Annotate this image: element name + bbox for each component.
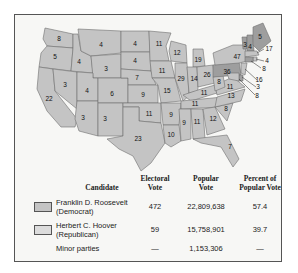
svg-text:3: 3: [256, 83, 260, 90]
svg-text:4: 4: [133, 40, 137, 47]
svg-text:3: 3: [104, 65, 108, 72]
state-az: [75, 101, 98, 136]
svg-text:11: 11: [201, 89, 208, 96]
svg-text:12: 12: [209, 115, 217, 122]
svg-text:4: 4: [85, 87, 89, 94]
candidate-name: Franklin D. Roosevelt (Democrat): [56, 198, 128, 216]
svg-text:11: 11: [146, 110, 153, 117]
svg-text:9: 9: [169, 111, 173, 118]
svg-text:11: 11: [194, 118, 201, 125]
state-ma: [245, 51, 259, 57]
svg-text:4: 4: [77, 58, 81, 65]
svg-text:13: 13: [227, 92, 235, 99]
svg-text:15: 15: [163, 87, 171, 94]
svg-text:8: 8: [224, 105, 228, 112]
democrat-swatch: [34, 202, 52, 212]
svg-text:14: 14: [190, 75, 198, 82]
state-ny: [213, 45, 247, 65]
state-ct: [245, 57, 253, 62]
electoral-vote: 59: [130, 225, 180, 234]
svg-text:22: 22: [45, 95, 53, 102]
candidate-name: Herbert C. Hoover (Republican): [56, 221, 117, 239]
percent-popular-vote: —: [235, 244, 285, 253]
svg-text:17: 17: [265, 45, 273, 52]
svg-text:4: 4: [248, 43, 252, 50]
state-de: [239, 75, 243, 81]
header-popular-vote: Popular Vote: [176, 174, 236, 192]
svg-text:8: 8: [57, 35, 61, 42]
svg-text:3: 3: [243, 41, 247, 48]
svg-text:8: 8: [217, 78, 221, 85]
header-percent-popular-vote: Percent of Popular Vote: [230, 174, 290, 192]
svg-text:29: 29: [177, 75, 185, 82]
svg-text:4: 4: [133, 57, 137, 64]
svg-text:4: 4: [99, 41, 103, 48]
state-nm: [98, 103, 123, 136]
us-electoral-map: 8 5 22 4 3 4 3 4 3 6 3 4 4 7 9 11 23 11 …: [15, 15, 283, 180]
republican-swatch: [34, 225, 52, 235]
svg-text:8: 8: [262, 65, 266, 72]
svg-text:3: 3: [103, 115, 107, 122]
svg-text:11: 11: [227, 83, 234, 90]
svg-text:9: 9: [141, 91, 145, 98]
svg-text:4: 4: [265, 57, 269, 64]
svg-text:7: 7: [228, 143, 232, 150]
header-electoral-vote: Electoral Vote: [130, 174, 180, 192]
svg-text:19: 19: [194, 56, 202, 63]
svg-text:16: 16: [255, 76, 263, 83]
svg-text:11: 11: [159, 67, 166, 74]
popular-vote: 22,809,638: [181, 202, 231, 211]
svg-text:12: 12: [173, 49, 181, 56]
svg-text:23: 23: [134, 135, 142, 142]
electoral-vote: 472: [130, 202, 180, 211]
candidate-name: Minor parties: [56, 244, 99, 253]
percent-popular-vote: 57.4: [235, 202, 285, 211]
svg-text:3: 3: [81, 114, 85, 121]
popular-vote: 1,153,306: [181, 244, 231, 253]
svg-text:8: 8: [255, 92, 259, 99]
svg-text:3: 3: [63, 81, 67, 88]
svg-text:26: 26: [203, 71, 211, 78]
state-nj: [241, 63, 247, 75]
svg-text:36: 36: [223, 68, 231, 75]
svg-text:7: 7: [135, 74, 139, 81]
percent-popular-vote: 39.7: [235, 225, 285, 234]
popular-vote: 15,758,901: [181, 225, 231, 234]
svg-text:5: 5: [258, 33, 262, 40]
svg-text:6: 6: [110, 90, 114, 97]
state-fl: [193, 135, 239, 167]
svg-text:11: 11: [192, 100, 199, 107]
electoral-vote: —: [130, 244, 180, 253]
svg-text:9: 9: [182, 119, 186, 126]
svg-text:5: 5: [53, 53, 57, 60]
svg-text:10: 10: [167, 131, 175, 138]
svg-text:11: 11: [156, 40, 163, 47]
svg-text:47: 47: [233, 53, 241, 60]
